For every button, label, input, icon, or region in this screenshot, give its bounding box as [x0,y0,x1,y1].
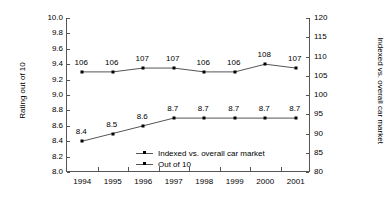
y-axis-right-tick-label: 105 [314,72,327,80]
y-axis-left-tick-label: 8.6 [52,122,63,130]
y-axis-right-tick-label: 120 [314,14,327,22]
data-point-label: 8.4 [76,128,87,136]
data-point-marker [264,63,267,66]
data-point-marker [111,70,114,73]
legend-label: Out of 10 [158,159,191,170]
x-axis-tick-label: 1998 [195,177,213,186]
y-axis-right-tick-label: 115 [314,33,327,41]
legend-item-1[interactable]: Out of 10 [136,159,265,170]
x-axis-tick-label: 1997 [165,177,183,186]
data-point-label: 108 [258,51,271,59]
x-axis-tick-label: 2001 [287,177,305,186]
data-point-marker [142,124,145,127]
data-point-label: 107 [288,55,301,63]
data-point-marker [203,70,206,73]
data-point-marker [233,117,236,120]
chart-legend: Indexed vs. overall car marketOut of 10 [136,148,265,170]
y-axis-right-tick-label: 100 [314,91,327,99]
data-point-label: 106 [227,59,240,67]
data-point-marker [172,117,175,120]
data-point-marker [142,67,145,70]
y-axis-right-tick-label: 90 [314,130,323,138]
y-axis-left-title: Rating out of 10 [18,31,27,151]
legend-label: Indexed vs. overall car market [158,148,265,159]
x-axis-tick-label: 1999 [226,177,244,186]
data-point-marker [294,67,297,70]
data-point-label: 8.7 [259,105,270,113]
y-axis-right-tick-label: 80 [314,168,323,176]
y-axis-left-tick-label: 9.0 [52,91,63,99]
y-axis-left-tick-label: 10.0 [47,14,63,22]
y-axis-left-tick-label: 8.8 [52,106,63,114]
data-point-marker [203,117,206,120]
legend-item-0[interactable]: Indexed vs. overall car market [136,148,265,159]
data-point-label: 107 [136,55,149,63]
y-axis-left-tick-mark [67,172,70,173]
y-axis-left-tick-label: 8.0 [52,168,63,176]
y-axis-left-tick-label: 8.2 [52,153,63,161]
data-point-label: 106 [197,59,210,67]
y-axis-left-tick-label: 9.8 [52,29,63,37]
data-point-label: 107 [166,55,179,63]
data-point-marker [81,70,84,73]
data-point-label: 106 [75,59,88,67]
data-point-marker [233,70,236,73]
x-axis-tick-label: 1995 [104,177,122,186]
data-point-label: 8.7 [167,105,178,113]
data-point-label: 106 [105,59,118,67]
y-axis-left-tick-label: 9.4 [52,60,63,68]
y-axis-left-tick-label: 8.4 [52,137,63,145]
y-axis-left-tick-label: 9.6 [52,45,63,53]
x-axis-tick-label: 2000 [256,177,274,186]
y-axis-right-tick-label: 95 [314,110,323,118]
data-point-marker [294,117,297,120]
legend-marker-icon [136,161,153,168]
y-axis-left-tick-label: 9.2 [52,76,63,84]
y-axis-right-title: Indexed vs. overall car market [376,16,385,166]
data-point-label: 8.6 [137,113,148,121]
y-axis-right-tick-mark [306,172,309,173]
y-axis-right-tick-label: 85 [314,149,323,157]
data-point-label: 8.7 [228,105,239,113]
data-point-marker [81,140,84,143]
data-point-label: 8.7 [198,105,209,113]
data-point-marker [172,67,175,70]
x-axis-tick-label: 1994 [73,177,91,186]
data-point-label: 8.7 [289,105,300,113]
y-axis-right-tick-label: 110 [314,53,327,61]
data-point-marker [264,117,267,120]
data-point-label: 8.5 [106,121,117,129]
legend-marker-icon [136,150,153,157]
data-point-marker [111,132,114,135]
x-axis-tick-label: 1996 [134,177,152,186]
